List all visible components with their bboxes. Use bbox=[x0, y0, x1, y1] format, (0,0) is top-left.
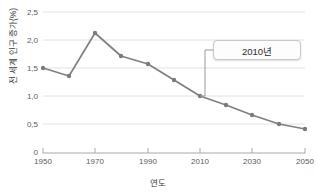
population-growth-line-chart: 2,5 2,0 1,5 1,0 0,5 0 1950 1970 1990 201… bbox=[0, 0, 316, 194]
y-tick-label-0: 0 bbox=[14, 148, 38, 157]
annotation-callout-label: 2010년 bbox=[213, 44, 301, 58]
x-tick-label-2010: 2010 bbox=[180, 157, 220, 166]
x-axis-title: 연도 bbox=[0, 176, 316, 188]
x-tick-label-1950: 1950 bbox=[23, 157, 63, 166]
x-tick-label-1990: 1990 bbox=[128, 157, 168, 166]
x-axis bbox=[43, 148, 305, 153]
y-axis-title: 전 세계 인구 증가(%) bbox=[6, 0, 18, 106]
annotation-leader-line bbox=[200, 50, 213, 96]
y-tick-label-0-5: 0,5 bbox=[14, 120, 38, 129]
gridlines bbox=[43, 12, 305, 124]
x-tick-label-2050: 2050 bbox=[285, 157, 316, 166]
x-tick-label-1970: 1970 bbox=[75, 157, 115, 166]
x-tick-label-2030: 2030 bbox=[232, 157, 272, 166]
